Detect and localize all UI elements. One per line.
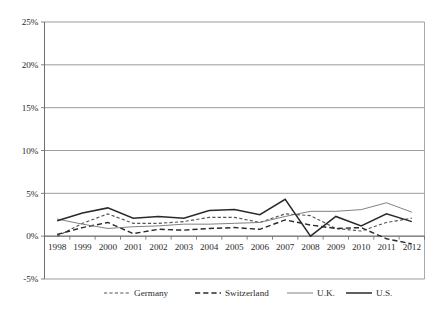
legend-label-germany[interactable]: Germany xyxy=(134,288,169,298)
y-axis-tick-label: 25% xyxy=(22,17,39,27)
series-group xyxy=(57,199,412,244)
x-axis-tick-label: 2007 xyxy=(276,242,295,252)
y-axis-tick-label: 5% xyxy=(26,189,39,199)
y-axis-tick-label: -5% xyxy=(23,274,39,284)
legend-label-switzerland[interactable]: Switzerland xyxy=(225,288,269,298)
x-axis-tick-label: 2008 xyxy=(301,242,320,252)
legend: GermanySwitzerlandU.K.U.S. xyxy=(104,288,392,298)
chart-container: 25%20%15%10%5%0%-5%199819992000200120022… xyxy=(0,0,441,312)
x-axis-tick-label: 2003 xyxy=(175,242,194,252)
x-axis-tick-label: 2002 xyxy=(149,242,168,252)
y-axis-tick-label: 0% xyxy=(26,231,39,241)
y-axis-tick-label: 10% xyxy=(22,146,39,156)
y-axis-tick-label: 20% xyxy=(22,60,39,70)
y-axis-tick-label: 15% xyxy=(22,103,39,113)
x-axis-tick-label: 2000 xyxy=(99,242,118,252)
x-axis-tick-label: 2004 xyxy=(200,242,219,252)
x-axis-tick-label: 1999 xyxy=(73,242,92,252)
x-axis-tick-label: 2006 xyxy=(251,242,270,252)
x-axis-tick-label: 2012 xyxy=(403,242,422,252)
legend-label-u-k[interactable]: U.K. xyxy=(317,288,335,298)
x-axis-tick-label: 2011 xyxy=(377,242,395,252)
x-axis-tick-label: 2005 xyxy=(225,242,244,252)
x-axis-tick-label: 1998 xyxy=(48,242,67,252)
x-axis: 1998199920002001200220032004200520062007… xyxy=(45,236,425,252)
x-axis-tick-label: 2009 xyxy=(327,242,346,252)
line-chart: 25%20%15%10%5%0%-5%199819992000200120022… xyxy=(0,0,441,312)
x-axis-tick-label: 2010 xyxy=(352,242,371,252)
legend-label-u-s[interactable]: U.S. xyxy=(376,288,392,298)
x-axis-tick-label: 2001 xyxy=(124,242,143,252)
